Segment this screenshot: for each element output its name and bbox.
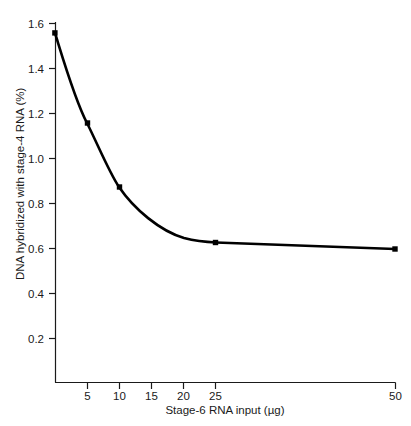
- data-point: [117, 184, 122, 189]
- x-tick-labels: 5 10 15 20 25 50: [84, 390, 402, 402]
- y-tick-label: 1.6: [28, 18, 44, 30]
- y-tick-label: 0.6: [28, 243, 44, 255]
- chart-figure: 0.2 0.4 0.6 0.8 1.0 1.2 1.4 1.6 5 10 15 …: [0, 0, 411, 426]
- data-curve: [55, 33, 395, 249]
- y-tick-label: 1.0: [28, 153, 44, 165]
- data-point: [85, 120, 90, 125]
- y-tick-label: 1.4: [28, 63, 45, 75]
- y-axis-label: DNA hybridized with stage-4 RNA (%): [14, 87, 26, 280]
- y-tick-label: 1.2: [28, 108, 44, 120]
- chart-canvas: 0.2 0.4 0.6 0.8 1.0 1.2 1.4 1.6 5 10 15 …: [0, 0, 411, 426]
- y-tick-marks: [49, 24, 56, 339]
- x-axis-label: Stage-6 RNA input (µg): [165, 404, 284, 416]
- x-tick-label: 10: [113, 390, 126, 402]
- y-tick-labels: 0.2 0.4 0.6 0.8 1.0 1.2 1.4 1.6: [28, 18, 45, 345]
- x-tick-label: 50: [389, 390, 402, 402]
- data-point: [52, 30, 57, 35]
- data-point-markers: [52, 30, 397, 252]
- x-tick-label: 15: [145, 390, 158, 402]
- x-tick-label: 5: [84, 390, 90, 402]
- x-tick-label: 20: [177, 390, 190, 402]
- x-tick-label: 25: [209, 390, 222, 402]
- data-point: [213, 240, 218, 245]
- y-tick-label: 0.8: [28, 198, 44, 210]
- y-tick-label: 0.2: [28, 333, 44, 345]
- y-tick-label: 0.4: [28, 288, 45, 300]
- x-tick-marks: [88, 383, 396, 390]
- data-point: [392, 246, 397, 251]
